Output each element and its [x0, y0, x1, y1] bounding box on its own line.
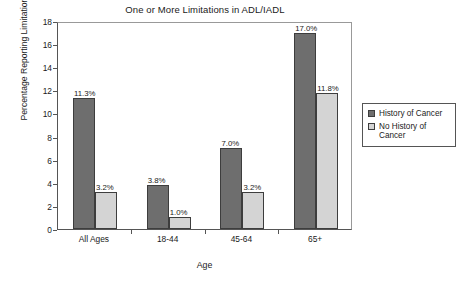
x-axis-title: Age: [57, 260, 352, 270]
x-axis-tick-label: 65+: [275, 234, 355, 244]
x-axis-tick-label: All Ages: [54, 234, 134, 244]
legend-item: History of Cancer: [368, 109, 451, 119]
bar: [147, 185, 169, 229]
bar: [73, 98, 95, 229]
legend-item-label: No History of Cancer: [379, 122, 451, 141]
bar-chart: One or More Limitations in ADL/IADL Perc…: [0, 0, 461, 283]
legend-item-label: History of Cancer: [379, 109, 442, 119]
y-axis-tick-label: 4: [30, 180, 52, 188]
chart-title: One or More Limitations in ADL/IADL: [57, 4, 353, 15]
bar-value-label: 3.2%: [243, 184, 261, 192]
bar-value-label: 3.2%: [96, 184, 114, 192]
chart-legend: History of CancerNo History of Cancer: [362, 103, 456, 147]
legend-swatch-icon: [368, 110, 375, 117]
y-axis-tick-label: 14: [30, 64, 52, 72]
bar-value-label: 3.8%: [148, 177, 166, 185]
bar: [95, 192, 117, 229]
legend-item: No History of Cancer: [368, 122, 451, 141]
y-axis-tick-label: 8: [30, 134, 52, 142]
bar-value-label: 7.0%: [221, 140, 239, 148]
bar: [242, 192, 264, 229]
y-axis-tick-label: 16: [30, 41, 52, 49]
y-axis-tick-label: 6: [30, 157, 52, 165]
bar-value-label: 1.0%: [170, 209, 188, 217]
plot-area: 11.3%3.2%3.8%1.0%7.0%3.2%17.0%11.8%: [57, 22, 352, 230]
bar: [220, 148, 242, 229]
bar-value-label: 11.8%: [317, 85, 339, 93]
y-axis-tick-label: 18: [30, 18, 52, 26]
y-axis-tick-label: 12: [30, 87, 52, 95]
y-axis-tick-label: 2: [30, 203, 52, 211]
bar-value-label: 11.3%: [74, 90, 96, 98]
bar-value-label: 17.0%: [295, 25, 317, 33]
y-axis-tick-label: 0: [30, 226, 52, 234]
bar: [294, 33, 316, 229]
y-axis-tick-label: 10: [30, 110, 52, 118]
bar: [316, 93, 338, 229]
y-axis-tick-mark: [53, 230, 57, 231]
x-axis-tick-label: 18-44: [128, 234, 208, 244]
legend-swatch-icon: [368, 123, 375, 130]
x-axis-tick-label: 45-64: [201, 234, 281, 244]
bar: [169, 217, 191, 229]
y-axis-title: Percentage Reporting Limitation(s): [19, 0, 29, 149]
